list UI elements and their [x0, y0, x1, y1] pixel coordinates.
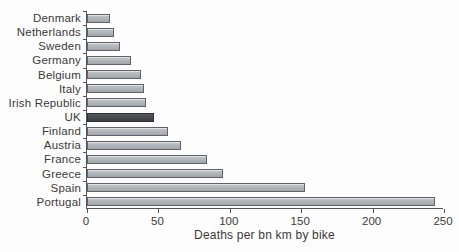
bar-greece [87, 169, 223, 178]
y-axis-tick [83, 110, 87, 111]
category-label-spain: Spain [0, 181, 81, 195]
bar-italy [87, 84, 144, 93]
bar-irish-republic [87, 98, 146, 107]
y-axis-tick [83, 11, 87, 12]
bar-portugal [87, 197, 435, 206]
y-axis-tick [83, 138, 87, 139]
category-label-belgium: Belgium [0, 68, 81, 82]
category-label-netherlands: Netherlands [0, 25, 81, 39]
category-label-finland: Finland [0, 124, 81, 138]
plot-area [86, 11, 443, 209]
cycling-deaths-bar-chart: DenmarkNetherlandsSwedenGermanyBelgiumIt… [0, 0, 459, 252]
category-label-portugal: Portugal [0, 195, 81, 209]
x-axis-tick-label: 50 [151, 215, 164, 227]
y-axis-tick [83, 25, 87, 26]
category-label-denmark: Denmark [0, 11, 81, 25]
y-axis-tick [83, 195, 87, 196]
category-axis-labels: DenmarkNetherlandsSwedenGermanyBelgiumIt… [0, 11, 81, 209]
bar-uk [87, 113, 154, 122]
y-axis-tick [83, 124, 87, 125]
category-label-italy: Italy [0, 82, 81, 96]
y-axis-tick [83, 53, 87, 54]
x-axis-tick-label: 250 [433, 215, 452, 227]
x-axis-tick-label: 150 [291, 215, 310, 227]
x-axis-tick-label: 0 [83, 215, 89, 227]
y-axis-tick [83, 167, 87, 168]
category-label-sweden: Sweden [0, 39, 81, 53]
x-axis-tick [444, 209, 445, 213]
y-axis-tick [83, 68, 87, 69]
category-label-irish-republic: Irish Republic [0, 96, 81, 110]
bar-germany [87, 56, 131, 65]
category-label-greece: Greece [0, 167, 81, 181]
x-axis-title: Deaths per bn km by bike [86, 228, 443, 242]
y-axis-tick [83, 82, 87, 83]
bar-spain [87, 183, 305, 192]
x-axis-tick [373, 209, 374, 213]
bar-austria [87, 141, 181, 150]
bar-sweden [87, 42, 120, 51]
x-axis-tick [158, 209, 159, 213]
y-axis-tick [83, 39, 87, 40]
bar-netherlands [87, 28, 114, 37]
bar-finland [87, 127, 168, 136]
bar-belgium [87, 70, 141, 79]
category-label-austria: Austria [0, 138, 81, 152]
y-axis-tick [83, 152, 87, 153]
x-axis-tick [301, 209, 302, 213]
y-axis-tick [83, 181, 87, 182]
x-axis-tick-label: 200 [362, 215, 381, 227]
category-label-uk: UK [0, 110, 81, 124]
category-label-france: France [0, 152, 81, 166]
y-axis-tick [83, 96, 87, 97]
bar-france [87, 155, 207, 164]
x-axis-tick [230, 209, 231, 213]
bar-denmark [87, 14, 110, 23]
x-axis-tick-label: 100 [219, 215, 238, 227]
x-axis-tick [87, 209, 88, 213]
category-label-germany: Germany [0, 53, 81, 67]
